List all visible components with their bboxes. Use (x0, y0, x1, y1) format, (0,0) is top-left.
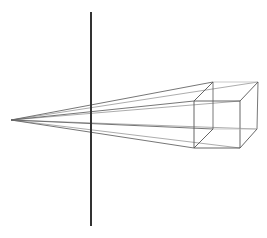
perspective-diagram (0, 0, 267, 238)
cube-edge (257, 82, 258, 129)
projection-ray (11, 101, 240, 120)
projection-ray (11, 82, 213, 120)
cube-edge (240, 82, 258, 101)
projection-rays (11, 82, 258, 148)
projection-ray (11, 101, 194, 120)
cube-edge (194, 129, 213, 148)
cube-wireframe (194, 82, 258, 148)
cube-edge (240, 129, 257, 148)
